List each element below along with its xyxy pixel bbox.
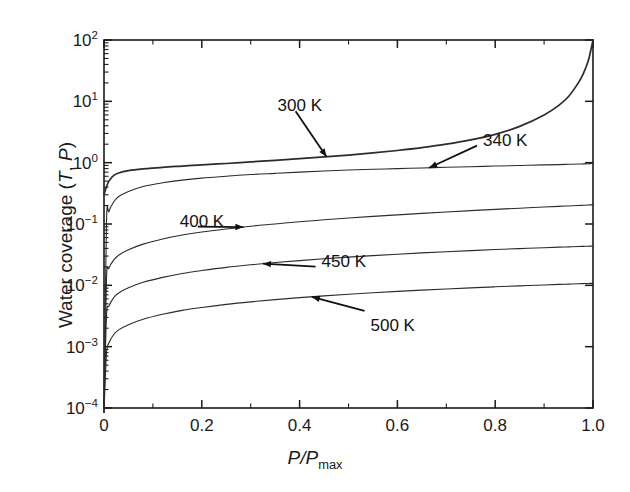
curve-label-arrowhead	[319, 148, 326, 156]
series-340-k	[104, 163, 593, 412]
series-line	[104, 283, 593, 412]
curve-label-leader-line	[312, 297, 365, 311]
x-axis-tick-label: 0.2	[172, 416, 232, 436]
curve-label-arrowhead	[235, 224, 243, 230]
curve-label-arrowhead	[312, 296, 321, 302]
series-line	[104, 205, 593, 413]
y-axis-tick-label: 101	[36, 90, 98, 112]
x-axis-tick-label: 0.4	[270, 416, 330, 436]
x-axis-tick-label: 1.0	[563, 416, 623, 436]
curve-label-400-k: 400 K	[180, 212, 224, 232]
y-axis-tick-label: 10−2	[36, 274, 98, 296]
curve-label-300-k: 300 K	[278, 96, 322, 116]
x-axis-tick-label: 0	[74, 416, 134, 436]
y-axis-tick-label: 10−1	[36, 213, 98, 235]
x-axis-tick-label: 0.6	[367, 416, 427, 436]
series-400-k	[104, 205, 593, 413]
chart-figure: Water coverage (T, P) P/Pmax 10−410−310−…	[0, 0, 630, 492]
series-300-k	[104, 40, 593, 195]
series-line	[104, 163, 593, 412]
curve-label-500-k: 500 K	[371, 316, 415, 336]
y-axis-tick-label: 102	[36, 29, 98, 51]
x-axis-tick-label: 0.8	[465, 416, 525, 436]
series-500-k	[104, 283, 593, 412]
series-line	[104, 40, 593, 195]
plot-frame	[104, 40, 593, 408]
curve-label-arrowhead	[263, 261, 271, 267]
y-axis-tick-label: 100	[36, 152, 98, 174]
curve-label-450-k: 450 K	[322, 252, 366, 272]
curve-label-340-k: 340 K	[483, 131, 527, 151]
y-axis-tick-label: 10−3	[36, 336, 98, 358]
curve-label-leader-line	[296, 111, 327, 156]
curve-label-arrowhead	[429, 162, 438, 168]
